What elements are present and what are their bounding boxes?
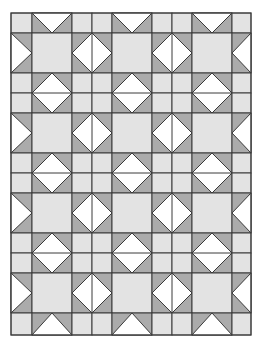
large-light-square xyxy=(192,193,232,233)
small-light-square xyxy=(72,173,92,193)
small-light-square xyxy=(11,233,32,253)
small-light-square xyxy=(92,73,112,93)
small-light-square xyxy=(232,233,251,253)
small-light-square xyxy=(72,13,92,33)
small-light-square xyxy=(72,313,92,335)
small-light-square xyxy=(92,173,112,193)
large-light-square xyxy=(112,33,152,73)
small-light-square xyxy=(11,93,32,113)
small-light-square xyxy=(152,173,172,193)
large-light-square xyxy=(112,113,152,153)
large-light-square xyxy=(112,273,152,313)
corner-light-square xyxy=(232,313,251,335)
small-light-square xyxy=(172,253,192,273)
small-light-square xyxy=(172,313,192,335)
corner-light-square xyxy=(232,13,251,33)
small-light-square xyxy=(92,93,112,113)
small-light-square xyxy=(11,153,32,173)
corner-light-square xyxy=(11,313,32,335)
large-light-square xyxy=(192,273,232,313)
small-light-square xyxy=(72,233,92,253)
large-light-square xyxy=(32,273,72,313)
small-light-square xyxy=(11,173,32,193)
large-light-square xyxy=(192,113,232,153)
small-light-square xyxy=(172,13,192,33)
large-light-square xyxy=(192,33,232,73)
small-light-square xyxy=(92,153,112,173)
corner-light-square xyxy=(11,13,32,33)
small-light-square xyxy=(232,93,251,113)
small-light-square xyxy=(152,233,172,253)
small-light-square xyxy=(152,73,172,93)
small-light-square xyxy=(72,73,92,93)
small-light-square xyxy=(232,173,251,193)
small-light-square xyxy=(172,73,192,93)
small-light-square xyxy=(72,93,92,113)
small-light-square xyxy=(172,93,192,113)
small-light-square xyxy=(232,73,251,93)
small-light-square xyxy=(152,13,172,33)
small-light-square xyxy=(92,13,112,33)
small-light-square xyxy=(232,253,251,273)
small-light-square xyxy=(92,233,112,253)
large-light-square xyxy=(32,113,72,153)
large-light-square xyxy=(32,33,72,73)
large-light-square xyxy=(112,193,152,233)
small-light-square xyxy=(232,153,251,173)
small-light-square xyxy=(152,153,172,173)
small-light-square xyxy=(92,253,112,273)
quilt-pattern xyxy=(0,0,256,338)
small-light-square xyxy=(172,233,192,253)
quilt-canvas xyxy=(0,0,256,338)
large-light-square xyxy=(32,193,72,233)
small-light-square xyxy=(72,153,92,173)
small-light-square xyxy=(11,253,32,273)
small-light-square xyxy=(11,73,32,93)
small-light-square xyxy=(172,173,192,193)
small-light-square xyxy=(172,153,192,173)
small-light-square xyxy=(72,253,92,273)
small-light-square xyxy=(152,93,172,113)
small-light-square xyxy=(152,253,172,273)
small-light-square xyxy=(92,313,112,335)
small-light-square xyxy=(152,313,172,335)
